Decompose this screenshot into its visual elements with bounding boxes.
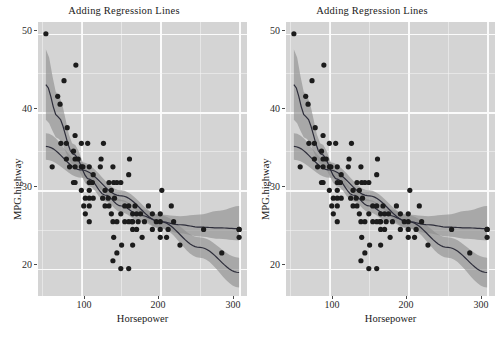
data-point: [407, 188, 412, 193]
data-point: [58, 141, 63, 146]
data-point: [359, 235, 364, 240]
data-point: [348, 196, 353, 201]
data-point: [130, 243, 135, 248]
data-point: [65, 125, 70, 130]
confidence-band-loess: [294, 49, 487, 240]
data-point: [349, 141, 354, 146]
data-point: [449, 227, 454, 232]
x-tick-label-200: 200: [388, 299, 424, 310]
panel-title: Adding Regression Lines: [248, 5, 496, 16]
data-point: [158, 211, 163, 216]
data-point: [61, 78, 66, 83]
data-point: [398, 211, 403, 216]
data-point: [132, 203, 137, 208]
x-tick-mark: [158, 296, 159, 299]
data-point: [320, 133, 325, 138]
data-point: [91, 172, 96, 177]
x-axis-label: Horsepower: [286, 313, 495, 324]
data-point: [71, 149, 76, 154]
data-point: [346, 164, 351, 169]
data-point: [354, 180, 359, 185]
data-point: [101, 141, 106, 146]
data-point: [324, 156, 329, 161]
y-tick-label-20: 20: [256, 259, 280, 270]
data-point: [329, 203, 334, 208]
data-point: [366, 211, 371, 216]
data-layer: [38, 22, 247, 296]
x-tick-label-300: 300: [215, 299, 251, 310]
data-point: [313, 125, 318, 130]
data-point: [111, 235, 116, 240]
y-axis-label: MPG.highway: [12, 158, 23, 220]
plot-area-right: [286, 22, 495, 296]
data-point: [485, 235, 490, 240]
data-layer: [286, 22, 495, 296]
data-point: [119, 243, 124, 248]
data-point: [72, 180, 77, 185]
data-point: [362, 219, 367, 224]
x-tick-label-300: 300: [463, 299, 496, 310]
data-point: [382, 227, 387, 232]
data-point: [87, 164, 92, 169]
data-point: [158, 219, 163, 224]
figure-canvas: Adding Regression Lines 50 40 30 20 100 …: [0, 0, 496, 341]
y-tick-mark: [282, 186, 285, 187]
data-point: [366, 266, 371, 271]
data-point: [419, 219, 424, 224]
data-point: [100, 196, 105, 201]
data-point: [378, 243, 383, 248]
data-point: [312, 141, 317, 146]
data-point: [358, 258, 363, 263]
data-point: [114, 219, 119, 224]
data-point: [126, 203, 131, 208]
data-point: [159, 188, 164, 193]
data-point: [142, 219, 147, 224]
data-point: [485, 227, 490, 232]
data-point: [354, 203, 359, 208]
data-point: [320, 180, 325, 185]
data-point: [79, 141, 84, 146]
data-point: [374, 172, 379, 177]
data-point: [76, 156, 81, 161]
y-tick-label-50: 50: [256, 25, 280, 36]
y-tick-mark: [34, 30, 37, 31]
data-point: [367, 243, 372, 248]
data-point: [164, 235, 169, 240]
data-point: [64, 156, 69, 161]
y-tick-label-50: 50: [8, 25, 32, 36]
data-point: [327, 188, 332, 193]
data-point: [87, 219, 92, 224]
data-point: [80, 164, 85, 169]
y-tick-label-40: 40: [256, 103, 280, 114]
data-point: [406, 219, 411, 224]
data-point: [328, 164, 333, 169]
data-point: [91, 196, 96, 201]
data-point: [118, 180, 123, 185]
data-point: [118, 266, 123, 271]
data-point: [335, 188, 340, 193]
data-point: [303, 94, 308, 99]
data-point: [335, 164, 340, 169]
x-tick-mark: [332, 296, 333, 299]
data-point: [138, 211, 143, 216]
data-point: [146, 203, 151, 208]
data-point: [357, 211, 362, 216]
x-tick-mark: [84, 296, 85, 299]
data-point: [380, 203, 385, 208]
data-point: [335, 203, 340, 208]
data-point: [360, 196, 365, 201]
data-point: [414, 227, 419, 232]
data-point: [110, 258, 115, 263]
x-tick-label-100: 100: [66, 299, 102, 310]
data-point: [158, 235, 163, 240]
data-point: [237, 235, 242, 240]
data-point: [374, 203, 379, 208]
data-point: [339, 196, 344, 201]
data-point: [315, 164, 320, 169]
data-point: [384, 219, 389, 224]
data-point: [386, 211, 391, 216]
data-point: [134, 227, 139, 232]
y-tick-mark: [34, 186, 37, 187]
data-point: [109, 188, 114, 193]
x-tick-mark: [406, 296, 407, 299]
